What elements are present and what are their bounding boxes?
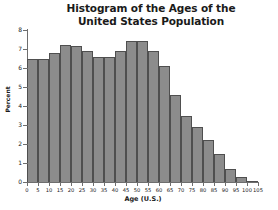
x-axis-tick: [148, 183, 149, 186]
y-axis-tick-label: 2: [13, 141, 22, 147]
x-axis-tick: [49, 183, 50, 186]
x-axis-tick: [104, 183, 105, 186]
y-axis-tick: [23, 49, 28, 50]
chart-title-line-2: United States Population: [28, 15, 274, 28]
histogram-bar: [181, 116, 192, 183]
x-axis-tick: [236, 183, 237, 186]
x-axis-tick: [181, 183, 182, 186]
x-axis-tick: [93, 183, 94, 186]
y-axis-tick-label: 6: [13, 65, 22, 71]
histogram-bar: [236, 177, 247, 182]
x-axis-tick: [115, 183, 116, 186]
histogram-bar: [137, 41, 148, 182]
y-axis-tick-label: 8: [13, 27, 22, 33]
y-axis-tick: [23, 163, 28, 164]
x-axis-tick-label: 105: [250, 187, 266, 193]
histogram-bar: [247, 181, 258, 182]
histogram-bar: [225, 169, 236, 182]
chart-title: Histogram of the Ages of the United Stat…: [28, 2, 274, 28]
histogram-bar: [170, 95, 181, 182]
x-axis-tick: [137, 183, 138, 186]
chart-title-line-1: Histogram of the Ages of the: [67, 2, 236, 14]
x-axis-tick: [170, 183, 171, 186]
histogram-bar: [115, 51, 126, 182]
x-axis-title: Age (U.S.): [27, 195, 259, 203]
x-axis-tick: [82, 183, 83, 186]
x-axis-tick: [60, 183, 61, 186]
histogram-bar: [203, 140, 214, 182]
histogram-bar: [93, 57, 104, 182]
x-axis-tick: [71, 183, 72, 186]
plot-area: [27, 30, 258, 182]
y-axis-tick: [23, 30, 28, 31]
y-axis-title: Percent: [4, 77, 11, 123]
histogram-bar: [148, 51, 159, 182]
y-axis-tick: [23, 68, 28, 69]
x-axis-tick: [247, 183, 248, 186]
y-axis-tick: [23, 106, 28, 107]
histogram-bar: [49, 53, 60, 182]
histogram-chart: Histogram of the Ages of the United Stat…: [0, 0, 278, 210]
y-axis-tick: [23, 144, 28, 145]
y-axis-tick-label: 0: [13, 179, 22, 185]
x-axis-tick: [225, 183, 226, 186]
y-axis-tick: [23, 87, 28, 88]
y-axis-tick-label: 1: [13, 160, 22, 166]
x-axis-tick: [27, 183, 28, 186]
histogram-bar: [27, 59, 38, 183]
y-axis-tick: [23, 125, 28, 126]
x-axis-tick: [126, 183, 127, 186]
histogram-bar: [192, 127, 203, 182]
x-axis-tick: [159, 183, 160, 186]
x-axis-tick: [258, 183, 259, 186]
x-axis-tick: [214, 183, 215, 186]
y-axis-tick-label: 5: [13, 84, 22, 90]
histogram-bar: [71, 46, 82, 182]
bar-series: [27, 30, 258, 182]
x-axis-tick: [192, 183, 193, 186]
histogram-bar: [104, 57, 115, 182]
y-axis-tick-label: 3: [13, 122, 22, 128]
y-axis-tick-label: 4: [13, 103, 22, 109]
histogram-bar: [82, 51, 93, 182]
histogram-bar: [60, 45, 71, 182]
y-axis-tick-label: 7: [13, 46, 22, 52]
histogram-bar: [38, 59, 49, 183]
x-axis-tick: [203, 183, 204, 186]
x-axis-tick: [38, 183, 39, 186]
histogram-bar: [126, 41, 137, 182]
histogram-bar: [214, 154, 225, 183]
histogram-bar: [159, 66, 170, 182]
